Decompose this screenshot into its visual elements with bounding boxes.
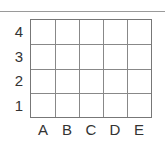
grid-line <box>31 44 151 45</box>
row-label: 1 <box>12 98 26 114</box>
row-label: 4 <box>12 24 26 40</box>
column-label: E <box>127 122 151 138</box>
column-label: B <box>55 122 79 138</box>
grid-line <box>31 69 151 70</box>
row-label: 2 <box>12 73 26 89</box>
top-divider <box>0 11 165 12</box>
column-label: C <box>79 122 103 138</box>
column-label: D <box>103 122 127 138</box>
row-label: 3 <box>12 49 26 65</box>
coordinate-grid <box>30 19 152 118</box>
grid-line <box>31 93 151 94</box>
column-label: A <box>31 122 55 138</box>
